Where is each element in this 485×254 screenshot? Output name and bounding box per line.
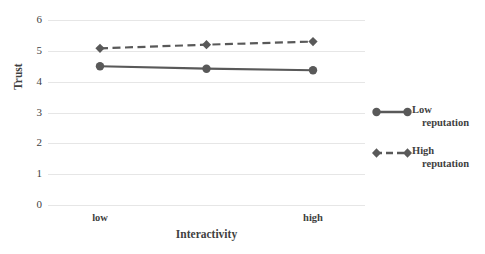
chart-screenshot: 6 5 4 3 2 1 0 Trust low high Interactivi… (0, 0, 485, 254)
series-layer (48, 20, 365, 205)
data-point-marker[interactable] (308, 37, 317, 46)
y-tick-label: 6 (20, 14, 42, 25)
y-axis-tick-labels: 6 5 4 3 2 1 0 (0, 20, 42, 205)
legend-sample-solid-circle-icon (372, 106, 412, 118)
x-tick-label: low (92, 212, 108, 224)
legend-entry-high-reputation[interactable]: Highreputation (372, 145, 485, 170)
legend-entry-low-reputation[interactable]: Lowreputation (372, 104, 485, 129)
x-axis-title: Interactivity (48, 228, 365, 240)
y-tick-label: 0 (20, 199, 42, 210)
y-tick-label: 1 (20, 168, 42, 179)
data-point-marker[interactable] (96, 62, 104, 70)
chart-legend: Lowreputation Highreputation (372, 104, 485, 186)
data-point-marker[interactable] (202, 40, 211, 49)
data-point-marker[interactable] (202, 65, 210, 73)
y-tick-label: 3 (20, 107, 42, 118)
data-point-marker[interactable] (309, 66, 317, 74)
gridline (48, 205, 365, 206)
y-tick-label: 2 (20, 137, 42, 148)
legend-label-low-reputation: Lowreputation (412, 104, 485, 129)
legend-sample-dashed-diamond-icon (372, 147, 412, 159)
x-axis-tick-labels: low high (0, 212, 485, 226)
plot-area (48, 20, 365, 205)
y-tick-label: 5 (20, 45, 42, 56)
data-point-marker[interactable] (95, 44, 104, 53)
y-axis-title: Trust (12, 63, 24, 90)
legend-label-high-reputation: Highreputation (412, 145, 485, 170)
series-group (95, 37, 317, 74)
x-tick-label: high (303, 212, 323, 224)
